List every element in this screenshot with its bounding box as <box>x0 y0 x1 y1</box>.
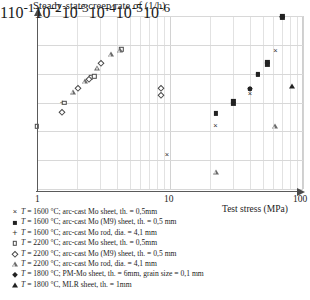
marker-open-triangle-icon <box>82 78 88 83</box>
marker-filled-square-icon <box>13 220 17 224</box>
gridline-horizontal <box>37 45 303 46</box>
legend-item: T = 1600 °C; arc-cast Mo (M9) sheet, th.… <box>10 217 302 227</box>
marker-filled-square-icon <box>213 111 217 115</box>
legend-item: +T = 1600 °C; arc-cast Mo rod, dia. = 4,… <box>10 228 302 238</box>
x-tick-label: 1 <box>35 194 40 204</box>
marker-open-triangle-icon <box>70 89 76 94</box>
marker-open-square-icon <box>92 74 96 78</box>
legend-label: T = 1600 °C; arc-cast Mo (M9) sheet, th.… <box>21 217 176 227</box>
legend-item: T = 2200 °C; arc-cast Mo rod, dia. = 4,1… <box>10 259 302 269</box>
x-tick-label: 100 <box>293 194 307 204</box>
gridline-horizontal <box>37 103 303 104</box>
gridline-horizontal <box>37 189 303 190</box>
marker-open-square-icon <box>13 241 17 245</box>
legend-item: T = 1800 °C; PM-Mo sheet, th. = 6mm, gra… <box>10 269 302 279</box>
marker-open-diamond-icon <box>157 92 163 98</box>
legend-label: T = 2200 °C; arc-cast Mo (M9) sheet, th.… <box>21 249 176 259</box>
y-axis-tick-labels: 110-110-210-310-410-510-6 <box>0 0 310 22</box>
chart-legend: ×T = 1600 °C; arc-cast Mo sheet, th. = 0… <box>10 207 302 290</box>
marker-filled-square-icon <box>231 99 235 103</box>
marker-open-triangle-icon <box>94 65 100 70</box>
y-axis-line <box>37 14 38 192</box>
marker-cross-icon: × <box>13 208 17 216</box>
gridline-horizontal <box>37 160 303 161</box>
plot-area: ××××+ <box>37 16 303 189</box>
x-axis-line <box>36 191 300 192</box>
marker-open-diamond-icon <box>12 251 18 257</box>
legend-item: ×T = 1600 °C; arc-cast Mo sheet, th. = 0… <box>10 207 302 217</box>
marker-plus-icon: + <box>12 228 17 237</box>
y-tick-label: 10-1 <box>7 4 34 21</box>
legend-label: T = 1600 °C; arc-cast Mo sheet, th. = 0,… <box>21 207 157 217</box>
legend-label: T = 2200 °C; arc-cast Mo rod, dia. = 4,1… <box>21 259 157 269</box>
marker-filled-square-icon <box>256 73 260 77</box>
marker-cross-icon: × <box>165 151 169 159</box>
y-tick-label: 10-5 <box>116 4 143 21</box>
legend-label: T = 1600 °C; arc-cast Mo rod, dia. = 4,1… <box>21 228 157 238</box>
legend-item: T = 1800 °C, MLR sheet, th. = 1mm <box>10 280 302 290</box>
marker-open-triangle-icon <box>272 124 278 129</box>
marker-open-triangle-icon <box>12 262 18 267</box>
gridline-horizontal <box>37 74 303 75</box>
gridline-horizontal <box>37 131 303 132</box>
marker-cross-icon: × <box>213 123 217 131</box>
legend-label: T = 1800 °C; PM-Mo sheet, th. = 6mm, gra… <box>21 269 204 279</box>
legend-item: T = 2200 °C; arc-cast Mo sheet, th. = 0,… <box>10 238 302 248</box>
marker-filled-triangle-icon <box>12 282 18 287</box>
y-tick-label: 10-3 <box>62 4 89 21</box>
marker-open-diamond-icon <box>157 85 163 91</box>
y-tick-label: 10-2 <box>35 4 62 21</box>
marker-filled-square-icon <box>265 60 269 64</box>
marker-open-triangle-icon <box>117 48 123 53</box>
y-tick-label: 10-6 <box>143 4 170 21</box>
y-tick-label: 10-4 <box>89 4 116 21</box>
marker-filled-triangle-icon <box>289 84 295 89</box>
legend-label: T = 1800 °C, MLR sheet, th. = 1mm <box>21 280 132 290</box>
creep-rate-chart: Steady-state creep rate of (1/h) ××××+ 1… <box>0 0 310 300</box>
x-tick-label: 10 <box>164 194 174 204</box>
legend-item: T = 2200 °C; arc-cast Mo (M9) sheet, th.… <box>10 249 302 259</box>
marker-open-square-icon <box>62 100 66 104</box>
legend-label: T = 2200 °C; arc-cast Mo sheet, th. = 0,… <box>21 238 157 248</box>
gridline-vertical <box>303 16 304 189</box>
marker-open-diamond-icon <box>59 109 65 115</box>
marker-open-triangle-icon <box>213 169 219 174</box>
marker-open-diamond-icon <box>75 85 81 91</box>
marker-filled-diamond-icon <box>12 272 18 278</box>
marker-cross-icon: × <box>273 47 277 55</box>
marker-open-triangle-icon <box>108 52 114 57</box>
